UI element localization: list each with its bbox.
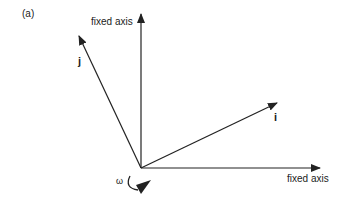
horizontal-fixed-axis-label: fixed axis (287, 173, 329, 184)
rotation-arrow (128, 176, 138, 190)
omega-label: ω (116, 176, 123, 186)
j-vector-label: j (77, 55, 81, 67)
i-vector-arrow (141, 103, 277, 168)
rotating-frame-diagram: (a) fixed axis fixed axis j i ω (0, 0, 345, 197)
i-vector-label: i (274, 111, 277, 123)
j-vector-arrow (79, 36, 141, 168)
rotation-arrow-head (136, 180, 151, 194)
vertical-fixed-axis-label: fixed axis (91, 16, 133, 27)
panel-label: (a) (22, 8, 34, 19)
